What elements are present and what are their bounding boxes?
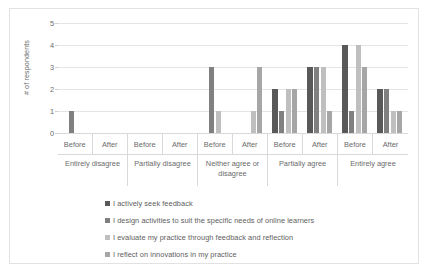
bar-group: [128, 23, 198, 133]
chart-frame: # of respondents 543210 BeforeAfterEntir…: [9, 8, 419, 264]
y-axis-tick-label: 0: [38, 129, 54, 138]
legend-item: I design activities to suit the specific…: [105, 212, 405, 229]
chart-legend: I actively seek feedbackI design activit…: [105, 195, 405, 263]
legend-swatch-icon: [105, 218, 110, 223]
y-axis-tick-labels: 543210: [38, 23, 54, 133]
legend-swatch-icon: [105, 235, 110, 240]
legend-item: I actively seek feedback: [105, 195, 405, 212]
bar: [356, 45, 361, 133]
bar: [314, 67, 319, 133]
bar-group: [268, 23, 338, 133]
subgroup-label: After: [303, 134, 338, 154]
bar: [321, 67, 326, 133]
bar-subgroup: [163, 23, 198, 133]
y-axis-tick-label: 3: [38, 63, 54, 72]
bar: [342, 45, 347, 133]
subgroup-label: Before: [198, 134, 233, 154]
subgroup-label: After: [233, 134, 268, 154]
bar: [216, 111, 221, 133]
subgroup-label-row: BeforeAfter: [128, 134, 197, 155]
subgroup-label: Before: [268, 134, 303, 154]
bar: [397, 111, 402, 133]
legend-swatch-icon: [105, 252, 110, 257]
bar: [327, 111, 332, 133]
subgroup-label-row: BeforeAfter: [338, 134, 408, 155]
bar-group: [338, 23, 408, 133]
bar-subgroup: [233, 23, 268, 133]
bar: [286, 89, 291, 133]
legend-item: I reflect on innovations in my practice: [105, 246, 405, 263]
bar-subgroup: [128, 23, 163, 133]
category-label: Partially agree: [268, 155, 337, 186]
category-group: BeforeAfterEntirely agree: [338, 134, 408, 186]
y-axis-tick-label: 2: [38, 85, 54, 94]
legend-label: I design activities to suit the specific…: [113, 216, 314, 225]
legend-item: I evaluate my practice through feedback …: [105, 229, 405, 246]
subgroup-label-row: BeforeAfter: [58, 134, 127, 155]
subgroup-label: After: [93, 134, 128, 154]
category-group: BeforeAfterNeither agree or disagree: [198, 134, 268, 186]
bar: [391, 111, 396, 133]
subgroup-label: Before: [338, 134, 373, 154]
category-label: Entirely disagree: [58, 155, 127, 186]
legend-label: I actively seek feedback: [113, 199, 193, 208]
plot-region: # of respondents 543210 BeforeAfterEntir…: [10, 9, 420, 191]
category-group: BeforeAfterPartially disagree: [128, 134, 198, 186]
bar: [209, 67, 214, 133]
bar: [251, 111, 256, 133]
category-label: Entirely agree: [338, 155, 408, 186]
bar-group: [198, 23, 268, 133]
legend-label: I reflect on innovations in my practice: [113, 250, 237, 259]
subgroup-label: Before: [128, 134, 163, 154]
bar: [362, 67, 367, 133]
bars-layer: [58, 23, 408, 133]
bar-subgroup: [303, 23, 338, 133]
category-axis: BeforeAfterEntirely disagreeBeforeAfterP…: [58, 133, 408, 185]
bar: [69, 111, 74, 133]
bar-subgroup: [373, 23, 408, 133]
y-axis-title: # of respondents: [22, 20, 31, 116]
bar-subgroup: [58, 23, 93, 133]
subgroup-label-row: BeforeAfter: [268, 134, 337, 155]
category-label: Neither agree or disagree: [198, 155, 267, 186]
legend-swatch-icon: [105, 201, 110, 206]
legend-label: I evaluate my practice through feedback …: [113, 233, 293, 242]
bar-group: [58, 23, 128, 133]
y-axis-tick-label: 1: [38, 107, 54, 116]
subgroup-label: After: [163, 134, 198, 154]
category-label: Partially disagree: [128, 155, 197, 186]
bar: [384, 89, 389, 133]
bar-subgroup: [198, 23, 233, 133]
bar-subgroup: [268, 23, 303, 133]
bar: [349, 111, 354, 133]
bar-subgroup: [338, 23, 373, 133]
bar: [292, 89, 297, 133]
subgroup-label-row: BeforeAfter: [198, 134, 267, 155]
y-axis-tick-label: 5: [38, 19, 54, 28]
y-axis-tick-label: 4: [38, 41, 54, 50]
bar: [377, 89, 382, 133]
bar: [257, 67, 262, 133]
subgroup-label: Before: [58, 134, 93, 154]
subgroup-label: After: [373, 134, 408, 154]
bar: [307, 67, 312, 133]
bar-subgroup: [93, 23, 128, 133]
bar: [272, 89, 277, 133]
bar: [279, 111, 284, 133]
category-group: BeforeAfterPartially agree: [268, 134, 338, 186]
category-group: BeforeAfterEntirely disagree: [58, 134, 128, 186]
